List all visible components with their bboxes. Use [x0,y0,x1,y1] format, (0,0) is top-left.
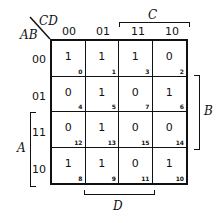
d-label: D [113,199,123,213]
kmap-cell: 011 [119,148,153,184]
kmap-cell: 13 [119,41,153,77]
c-bracket [119,22,190,27]
karnaugh-map-grid: 10 11 13 02 04 15 07 16 012 113 015 014 … [50,39,188,185]
kmap-cell: 15 [86,77,120,113]
kmap-cell: 18 [52,148,86,184]
kmap-cell: 110 [153,148,187,184]
b-label: B [204,104,213,118]
col-header: 01 [86,25,120,38]
kmap-cell: 015 [119,112,153,148]
row-header: 01 [32,90,46,103]
col-header: 00 [52,25,86,38]
kmap-cell: 014 [153,112,187,148]
b-bracket [194,75,200,150]
kmap-cell: 02 [153,41,187,77]
d-bracket [84,190,155,195]
row-header: 00 [32,53,46,66]
kmap-cell: 012 [52,112,86,148]
kmap-cell: 11 [86,41,120,77]
row-var-label: AB [20,28,37,42]
kmap-cell: 16 [153,77,187,113]
a-bracket [30,112,36,187]
c-label: C [148,8,157,22]
kmap-cell: 19 [86,148,120,184]
a-label: A [17,141,26,155]
kmap-cell: 10 [52,41,86,77]
kmap-cell: 04 [52,77,86,113]
kmap-cell: 07 [119,77,153,113]
kmap-cell: 113 [86,112,120,148]
